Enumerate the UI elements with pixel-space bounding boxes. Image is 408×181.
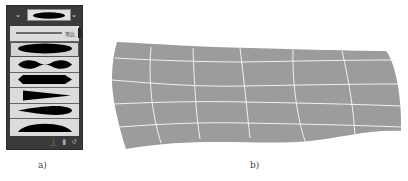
caption-b: b): [250, 160, 259, 170]
warped-grid-mesh: [0, 0, 408, 181]
